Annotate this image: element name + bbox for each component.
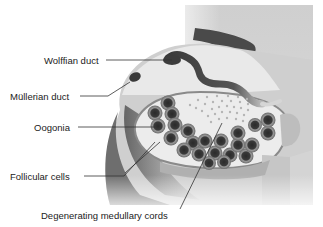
label-wolffian-duct: Wolffian duct	[44, 55, 99, 66]
ovary-diagram: Wolffian duct Müllerian duct Oogonia Fol…	[0, 0, 323, 227]
label-mullerian-duct: Müllerian duct	[10, 91, 69, 102]
label-oogonia: Oogonia	[34, 122, 70, 133]
label-follicular-cells: Follicular cells	[10, 171, 70, 182]
ovary-illustration	[0, 0, 323, 227]
label-degenerating-medullary-cords: Degenerating medullary cords	[41, 210, 168, 221]
